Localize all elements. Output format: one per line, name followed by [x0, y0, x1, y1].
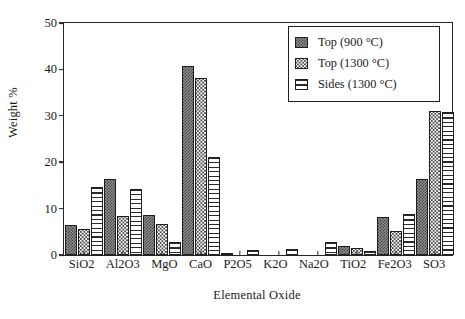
chart-legend: Top (900 °C)Top (1300 °C)Sides (1300 °C): [288, 26, 440, 102]
x-tick-label: MgO: [151, 258, 177, 271]
legend-swatch: [295, 37, 308, 48]
x-tick-label: Na2O: [299, 258, 329, 271]
bar-group: [181, 23, 220, 255]
x-tick-label: SiO2: [69, 258, 95, 271]
bar[interactable]: [91, 187, 103, 255]
bar[interactable]: [65, 225, 77, 255]
x-tick-mark: [356, 251, 357, 256]
bar[interactable]: [195, 78, 207, 255]
legend-label: Sides (1300 °C): [318, 78, 397, 90]
bar[interactable]: [364, 251, 376, 255]
x-tick-mark: [278, 251, 279, 256]
bar[interactable]: [429, 111, 441, 255]
y-tick-label: 30: [45, 110, 65, 123]
x-tick-mark: [395, 251, 396, 256]
x-axis-ticks: SiO2Al2O3MgOCaOP2O5K2ONa2OTiO2Fe2O3SO3: [63, 258, 451, 271]
bar[interactable]: [325, 242, 337, 255]
legend-item[interactable]: Top (900 °C): [295, 32, 434, 53]
legend-label: Top (900 °C): [318, 36, 383, 48]
bar[interactable]: [182, 66, 194, 255]
x-axis-title: Elemental Oxide: [63, 288, 451, 303]
x-tick-label: Al2O3: [106, 258, 140, 271]
bar[interactable]: [338, 246, 350, 255]
x-tick-mark: [161, 251, 162, 256]
bar-group: [142, 23, 181, 255]
x-tick-mark: [200, 251, 201, 256]
x-tick-label: CaO: [189, 258, 212, 271]
bar[interactable]: [416, 179, 428, 255]
y-tick-label: 10: [45, 202, 65, 215]
bar[interactable]: [169, 242, 181, 255]
bar[interactable]: [117, 216, 129, 255]
x-tick-label: Fe2O3: [378, 258, 412, 271]
y-axis-title: Weight %: [6, 87, 21, 138]
legend-swatch: [295, 58, 308, 69]
x-tick-label: SO3: [423, 258, 445, 271]
bar-group: [103, 23, 142, 255]
x-tick-label: TiO2: [340, 258, 366, 271]
bar-group: [220, 23, 259, 255]
bar[interactable]: [403, 214, 415, 255]
bar[interactable]: [130, 189, 142, 255]
x-tick-mark: [239, 251, 240, 256]
legend-item[interactable]: Sides (1300 °C): [295, 74, 434, 95]
bar[interactable]: [442, 112, 454, 255]
x-tick-label: P2O5: [223, 258, 251, 271]
legend-item[interactable]: Top (1300 °C): [295, 53, 434, 74]
bar[interactable]: [208, 157, 220, 255]
y-tick-label: 40: [45, 63, 65, 76]
legend-swatch: [295, 79, 308, 90]
x-tick-label: K2O: [263, 258, 287, 271]
y-tick-label: 0: [51, 249, 64, 262]
y-tick-label: 20: [45, 156, 65, 169]
x-tick-mark: [83, 251, 84, 256]
bar[interactable]: [286, 249, 298, 255]
bar[interactable]: [247, 250, 259, 255]
bar-group: [64, 23, 103, 255]
y-tick-label: 50: [45, 17, 65, 30]
legend-label: Top (1300 °C): [318, 57, 389, 69]
bar[interactable]: [104, 179, 116, 255]
bar[interactable]: [221, 253, 233, 255]
x-tick-mark: [122, 251, 123, 256]
bar[interactable]: [377, 217, 389, 255]
x-tick-mark: [434, 251, 435, 256]
bar-chart-figure: Weight % 50403020100 SiO2Al2O3MgOCaOP2O5…: [0, 0, 465, 319]
x-tick-mark: [317, 251, 318, 256]
bar[interactable]: [143, 215, 155, 255]
